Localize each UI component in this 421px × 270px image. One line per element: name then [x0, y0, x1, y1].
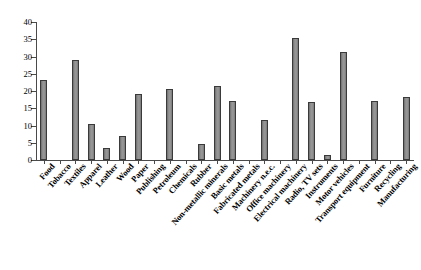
plot-area: [36, 22, 414, 160]
y-axis-line: [36, 22, 37, 160]
bar: [119, 136, 126, 160]
bar: [166, 89, 173, 160]
x-axis-labels: FoodTobaccoTextilesApparelLeatherWoodPap…: [36, 162, 421, 270]
x-axis-line: [36, 160, 414, 161]
bar: [214, 86, 221, 160]
y-axis-tick-label: 10: [8, 122, 32, 131]
y-axis-tick-label: 25: [8, 70, 32, 79]
bar: [88, 124, 95, 160]
chart-title: [0, 0, 421, 7]
bar: [340, 52, 347, 160]
bar-chart-figure: FoodTobaccoTextilesApparelLeatherWoodPap…: [0, 0, 421, 270]
bar: [261, 120, 268, 160]
y-axis-tick-label: 35: [8, 35, 32, 44]
y-axis-tick-label: 20: [8, 87, 32, 96]
bar: [308, 102, 315, 160]
y-axis-tick-label: 30: [8, 53, 32, 62]
y-axis-tick-label: 15: [8, 104, 32, 113]
bar: [135, 94, 142, 160]
bar: [324, 155, 331, 160]
bar: [40, 80, 47, 160]
y-axis-tick-label: 40: [8, 18, 32, 27]
y-axis-tick-label: 0: [8, 156, 32, 165]
bar: [72, 60, 79, 160]
bar: [292, 38, 299, 160]
y-axis-tick-label: 5: [8, 139, 32, 148]
bar: [403, 97, 410, 160]
bar: [229, 101, 236, 160]
bar: [371, 101, 378, 160]
bar: [198, 144, 205, 160]
bar: [103, 148, 110, 160]
